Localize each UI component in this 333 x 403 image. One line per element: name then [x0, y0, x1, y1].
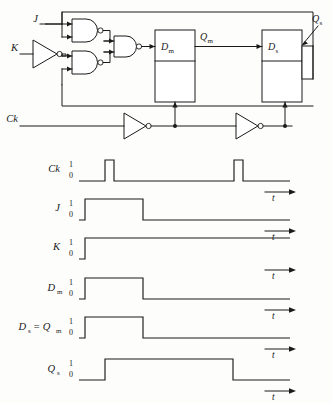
- waveform-dm: D m 1 0 t: [46, 278, 296, 321]
- timing-diagram: Ck 1 0 t J 1 0 t K 1 0 t: [0, 0, 333, 403]
- waveform-k-axis-label: t: [272, 271, 275, 281]
- waveform-ck-level-high: 1: [69, 160, 73, 169]
- waveform-j-label: J: [55, 202, 61, 213]
- waveform-j-axis-label: t: [272, 232, 275, 242]
- waveform-ds-level-high: 1: [69, 317, 73, 326]
- waveform-ds-axis-label: t: [272, 350, 275, 360]
- waveform-k-label: K: [52, 241, 61, 252]
- waveform-ck-label: Ck: [48, 163, 60, 174]
- waveform-dm-label: D: [46, 282, 55, 293]
- waveform-ds-label: D: [17, 321, 26, 332]
- waveform-qs-label-sub: s: [57, 369, 60, 377]
- waveform-ck-level-low: 0: [69, 171, 73, 180]
- figure-page: J K Ck D m Q m D s Q s Ck 1 0 t J 1 0: [0, 0, 333, 403]
- waveform-k: K 1 0 t: [52, 238, 296, 281]
- waveform-ck: Ck 1 0 t: [48, 160, 296, 203]
- waveform-ds-level-low: 0: [69, 328, 73, 337]
- waveform-qs-level-high: 1: [69, 359, 73, 368]
- waveform-dm-axis-label: t: [272, 311, 275, 321]
- waveform-ds-label-sub: s: [28, 327, 31, 335]
- waveform-qs-level-low: 0: [69, 370, 73, 379]
- waveform-k-level-high: 1: [69, 238, 73, 247]
- waveform-ds-label-extra: = Q: [33, 321, 51, 332]
- waveform-qs-axis-label: t: [272, 392, 275, 402]
- waveform-j-level-high: 1: [69, 199, 73, 208]
- waveform-qs-label: Q: [47, 363, 55, 374]
- waveform-j: J 1 0 t: [55, 199, 296, 242]
- waveform-j-level-low: 0: [69, 210, 73, 219]
- waveform-ds-label-extra-sub: m: [56, 327, 62, 335]
- waveform-ck-axis-label: t: [272, 193, 275, 203]
- waveform-ds-qm: D s = Q m 1 0 t: [17, 317, 296, 360]
- waveform-dm-label-sub: m: [57, 288, 63, 296]
- waveform-qs: Q s 1 0 t: [47, 359, 296, 402]
- waveform-dm-level-high: 1: [69, 278, 73, 287]
- waveform-dm-level-low: 0: [69, 289, 73, 298]
- waveform-k-level-low: 0: [69, 249, 73, 258]
